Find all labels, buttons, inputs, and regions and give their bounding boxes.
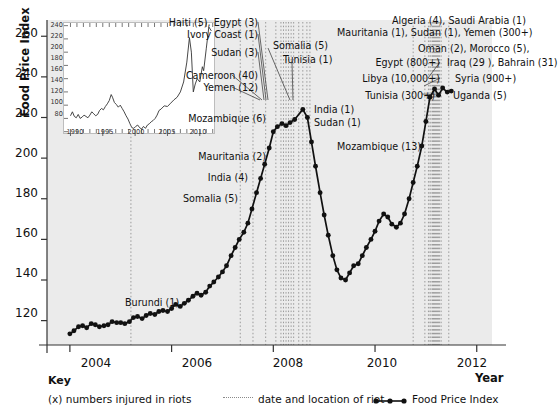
annotation-mauritania-2: Mauritania (2) [128,151,266,163]
annotation-oman-morocco: Oman (2), Morocco (5), [418,43,529,55]
inset-y-200: 200 [47,43,63,51]
annotation-mozambique-6: Mozambique (6) [128,113,266,125]
annotation-libya: Libya (10,000+) [330,73,440,85]
key-item-numbers: (x) numbers injured in riots [48,393,191,405]
annotation-cameroon: Cameroon (40) [48,70,258,82]
annotation-yemen-12: Yemen (12) [48,82,258,94]
inset-x-2005: 2005 [154,128,180,136]
annotation-somalia-5-b: Somalia (5) [273,40,328,52]
key-row: (x) numbers injured in riots date and lo… [48,393,488,409]
annotation-tunisia-300: Tunisia (300+) [325,90,435,102]
series-line-icon [373,396,407,406]
inset-y-220: 220 [47,32,63,40]
annotation-sudan-1: Sudan (1) [314,117,361,129]
key-title: Key [48,374,71,387]
annotation-india-1: India (1) [314,104,354,116]
annotation-mauritania-sudan-yemen: Mauritania (1), Sudan (1), Yemen (300+) [337,27,533,39]
key-item-fpi: Food Price Index [373,393,498,405]
annotation-ivory-coast: Ivory Coast (1) [78,29,258,41]
inset-x-2000: 2000 [123,128,149,136]
inset-x-1995: 1995 [92,128,118,136]
annotation-iraq-bahrain: Iraq (29 ), Bahrain (31) [447,57,558,69]
annotation-somalia-5-a: Somalia (5) [128,193,238,205]
key-item-riot-line: date and location of riot [223,393,384,405]
annotation-algeria-saudi: Algeria (4), Saudi Arabia (1) [392,15,526,27]
annotation-syria: Syria (900+) [455,73,516,85]
inset-x-1990: 1990 [62,128,88,136]
annotation-uganda: Uganda (5) [453,90,507,102]
key-fpi-label: Food Price Index [412,393,498,405]
key-numbers-label: (x) numbers injured in riots [48,393,191,405]
inset-y-100: 100 [47,98,63,106]
annotation-tunisia-1: Tunisia (1) [283,54,332,66]
key-riot-label: date and location of riot [258,393,384,405]
dotted-line-icon [223,397,253,399]
annotation-haiti-egypt: Haiti (5), Egypt (3) [78,17,258,29]
inset-y-180: 180 [47,54,63,62]
annotation-mozambique-13: Mozambique (13) [337,141,421,153]
annotation-sudan-3: Sudan (3) [78,47,258,59]
inset-y-80: 80 [47,110,63,118]
annotation-egypt-800: Egypt (800+) [330,57,440,69]
annotation-burundi: Burundi (1) [125,297,179,309]
annotation-india-4: India (4) [128,172,248,184]
inset-x-2010: 2010 [185,128,211,136]
inset-y-240: 240 [47,21,63,29]
